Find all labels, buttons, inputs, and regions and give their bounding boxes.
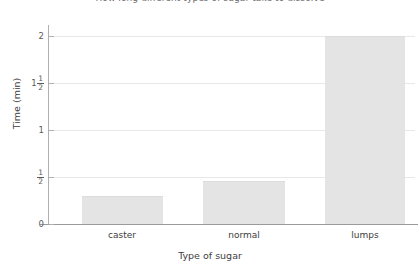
fraction-denominator: 2 xyxy=(37,178,44,186)
xtick-label-caster: caster xyxy=(108,230,136,240)
ytick-label-0: 0 xyxy=(4,217,48,231)
ytick-mark-0 xyxy=(49,224,54,225)
ytick-label-2: 2 xyxy=(4,29,48,43)
ytick-label-0-5: 1 2 xyxy=(4,170,48,184)
ytick-whole: 2 xyxy=(39,31,44,41)
x-axis-line xyxy=(40,224,418,225)
bar-chart: How long different types of sugar take t… xyxy=(0,0,420,267)
plot-area xyxy=(49,36,415,224)
bar-lumps xyxy=(325,36,405,224)
y-axis-title: Time (min) xyxy=(11,44,22,164)
bar-normal xyxy=(203,181,285,224)
xtick-label-lumps: lumps xyxy=(351,230,378,240)
ytick-mark-2 xyxy=(49,36,54,37)
ytick-whole: 1 xyxy=(31,78,36,88)
chart-title: How long different types of sugar take t… xyxy=(0,0,420,3)
ytick-mark-1-5 xyxy=(49,83,54,84)
fraction-half: 1 2 xyxy=(37,169,44,186)
y-tick-labels: 2 1 1 2 1 1 2 0 xyxy=(0,0,48,267)
bar-caster xyxy=(82,196,163,224)
ytick-mark-1 xyxy=(49,130,54,131)
fraction-half: 1 2 xyxy=(37,75,44,92)
ytick-whole: 0 xyxy=(39,219,44,229)
fraction-denominator: 2 xyxy=(37,84,44,92)
x-axis-title: Type of sugar xyxy=(0,250,420,261)
xtick-label-normal: normal xyxy=(228,230,260,240)
ytick-whole: 1 xyxy=(39,125,44,135)
ytick-mark-0-5 xyxy=(49,177,54,178)
